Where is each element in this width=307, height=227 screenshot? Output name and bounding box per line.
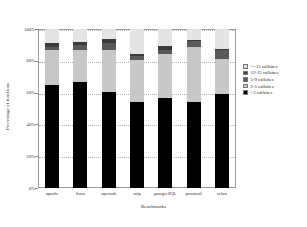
legend-swatch-icon [243,71,248,76]
legend-swatch-icon [243,84,248,89]
y-tick-mark [35,188,38,189]
stacked-bar-chart: 0%20%40%60%80%100% apachelinuxopensshsni… [0,0,307,227]
chart-legend: >=15 callsites12-15 callsites5-9 callsit… [243,63,305,96]
legend-item: 12-15 callsites [243,70,305,77]
legend-item: >=15 callsites [243,63,305,70]
legend-item: <2 callsites [243,89,305,96]
x-tick-label: apache [46,191,59,196]
x-tick-label: zebra [217,191,227,196]
legend-item-label: 5-9 callsites [251,77,274,82]
y-tick-label: 0% [2,186,35,191]
y-axis-title: Percentage of functions [5,64,10,150]
x-tick-label: postgreSQL [154,191,176,196]
legend-item-label: 2-5 callsites [251,84,274,89]
legend-swatch-icon [243,90,248,95]
legend-item: 5-9 callsites [243,76,305,83]
x-tick-label: openssh [101,191,116,196]
legend-item-label: 12-15 callsites [251,70,279,75]
y-tick-mark [35,124,38,125]
y-tick-mark [35,156,38,157]
legend-swatch-icon [243,64,248,69]
legend-item: 2-5 callsites [243,83,305,90]
x-tick-label: linux [76,191,85,196]
x-tick-label: procmail [185,191,201,196]
x-tick-label: snip [133,191,141,196]
y-tick-label: 100% [2,27,35,32]
legend-item-label: >=15 callsites [251,64,278,69]
y-tick-mark [35,29,38,30]
x-axis-title: Benchmarks [0,204,307,209]
legend-swatch-icon [243,77,248,82]
legend-item-label: <2 callsites [251,90,273,95]
y-tick-label: 20% [2,154,35,159]
y-tick-mark [35,61,38,62]
y-tick-mark [35,93,38,94]
